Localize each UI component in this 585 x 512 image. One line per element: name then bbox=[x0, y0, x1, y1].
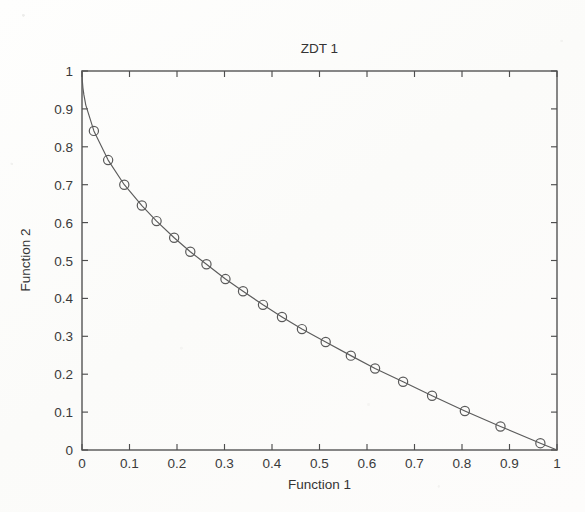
y-axis-tick-labels: 00.10.20.30.40.50.60.70.80.91 bbox=[54, 64, 73, 458]
y-tick-label: 0 bbox=[65, 443, 73, 458]
x-tick-label: 0.2 bbox=[168, 456, 187, 471]
y-tick-label: 1 bbox=[65, 64, 73, 79]
x-tick-label: 0.5 bbox=[310, 456, 329, 471]
zdt1-line-chart: 00.10.20.30.40.50.60.70.80.91 00.10.20.3… bbox=[0, 0, 585, 512]
y-axis-ticks bbox=[82, 71, 557, 450]
x-tick-label: 0.4 bbox=[263, 456, 282, 471]
x-tick-label: 0 bbox=[78, 456, 86, 471]
x-axis-label: Function 1 bbox=[288, 477, 351, 492]
y-tick-label: 0.5 bbox=[54, 254, 73, 269]
y-tick-label: 0.2 bbox=[54, 367, 73, 382]
x-tick-label: 0.3 bbox=[215, 456, 234, 471]
pareto-front-markers bbox=[89, 126, 545, 448]
x-tick-label: 0.1 bbox=[120, 456, 139, 471]
y-tick-label: 0.7 bbox=[54, 178, 73, 193]
x-tick-label: 0.9 bbox=[500, 456, 519, 471]
pareto-front-line bbox=[82, 71, 557, 450]
figure-canvas: 00.10.20.30.40.50.60.70.80.91 00.10.20.3… bbox=[0, 0, 585, 512]
y-tick-label: 0.9 bbox=[54, 102, 73, 117]
y-tick-label: 0.1 bbox=[54, 405, 73, 420]
y-tick-label: 0.4 bbox=[54, 291, 73, 306]
x-tick-label: 0.8 bbox=[453, 456, 472, 471]
x-tick-label: 0.7 bbox=[405, 456, 424, 471]
x-axis-tick-labels: 00.10.20.30.40.50.60.70.80.91 bbox=[78, 456, 561, 471]
chart-title: ZDT 1 bbox=[301, 41, 338, 56]
plot-frame bbox=[82, 71, 557, 450]
y-tick-label: 0.6 bbox=[54, 216, 73, 231]
y-axis-label: Function 2 bbox=[18, 228, 33, 291]
y-tick-label: 0.3 bbox=[54, 329, 73, 344]
y-tick-label: 0.8 bbox=[54, 140, 73, 155]
x-axis-ticks bbox=[82, 71, 557, 450]
x-tick-label: 1 bbox=[553, 456, 561, 471]
x-tick-label: 0.6 bbox=[358, 456, 377, 471]
